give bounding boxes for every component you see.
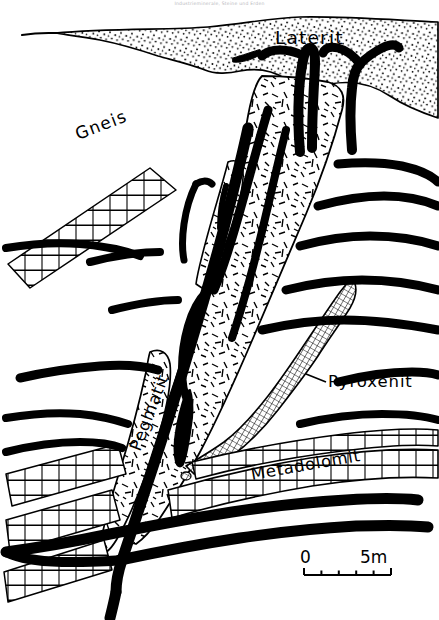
label-laterite: Laterit — [275, 27, 344, 48]
scale-bar-end-label: 5m — [360, 547, 387, 567]
scale-bar-start-label: 0 — [300, 547, 311, 567]
pyroxenite-tail-blob — [181, 472, 191, 480]
geological-cross-section-figure: Industrieminerale, Steine und Erden — [0, 0, 439, 620]
cross-section-drawing: Laterit Gneis Pegmatit Pyroxenit Metadol… — [0, 0, 439, 620]
label-pyroxenite: Pyroxenit — [328, 372, 413, 391]
